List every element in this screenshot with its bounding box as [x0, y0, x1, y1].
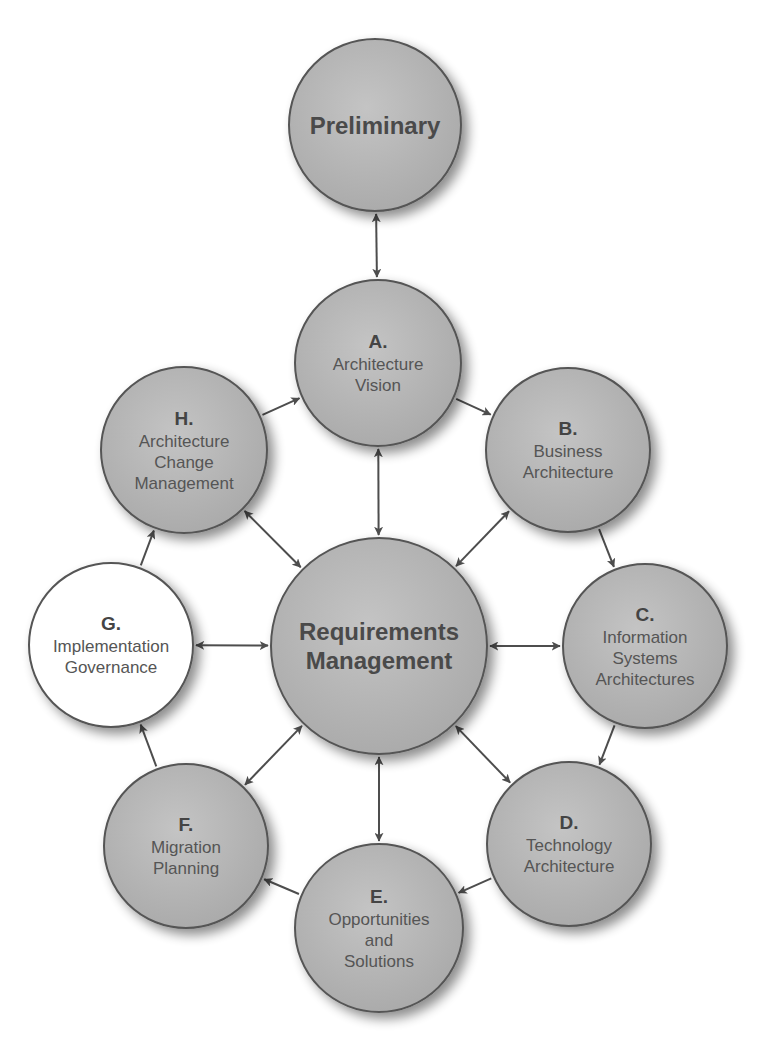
phase-name-line: Implementation [53, 636, 169, 657]
phase-name-line: Migration [151, 837, 221, 858]
phase-name-line: Opportunities [328, 909, 429, 930]
phase-label-h: H.ArchitectureChangeManagement [134, 407, 233, 494]
phase-name-line: Management [299, 646, 459, 675]
arrow-g-to-h [141, 531, 154, 566]
phase-label-a: A.ArchitectureVision [333, 330, 424, 396]
phase-letter: H. [134, 407, 233, 431]
phase-letter: F. [151, 813, 221, 837]
arrow-f-to-g [141, 725, 157, 767]
phase-name-line: Governance [53, 657, 169, 678]
phase-name-line: Information [595, 627, 694, 648]
phase-name-line: Solutions [328, 951, 429, 972]
phase-label-f: F.MigrationPlanning [151, 813, 221, 879]
phase-name-line: Planning [151, 858, 221, 879]
phase-name-line: Architecture [333, 354, 424, 375]
arrow-a-to-b [456, 399, 491, 415]
bidirectional-arrow-rm-to-h [245, 511, 301, 567]
phase-label-d: D.TechnologyArchitecture [524, 811, 615, 877]
phase-name-line: Systems [595, 648, 694, 669]
arrow-e-to-f [264, 879, 299, 894]
phase-letter: C. [595, 603, 694, 627]
phase-name-line: Architecture [523, 462, 614, 483]
phase-letter: E. [328, 885, 429, 909]
phase-label-prelim: Preliminary [310, 111, 441, 140]
phase-label-e: E.OpportunitiesandSolutions [328, 885, 429, 972]
phase-name-line: Vision [333, 375, 424, 396]
phase-letter: D. [524, 811, 615, 835]
phase-name-line: Requirements [299, 617, 459, 646]
bidirectional-arrow-rm-to-b [456, 511, 509, 566]
phase-label-rm: RequirementsManagement [299, 617, 459, 675]
bidirectional-arrow-prelim-to-a [376, 214, 377, 277]
phase-label-b: B.BusinessArchitecture [523, 417, 614, 483]
phase-letter: A. [333, 330, 424, 354]
phase-label-g: G.ImplementationGovernance [53, 612, 169, 678]
phase-name-line: Preliminary [310, 111, 441, 140]
phase-name-line: Management [134, 473, 233, 494]
phase-name-line: Architecture [134, 431, 233, 452]
phase-name-line: and [328, 930, 429, 951]
phase-name-line: Architecture [524, 856, 615, 877]
phase-name-line: Architectures [595, 669, 694, 690]
arrow-b-to-c [599, 529, 614, 567]
phase-name-line: Technology [524, 835, 615, 856]
phase-name-line: Change [134, 452, 233, 473]
arrow-d-to-e [459, 878, 492, 892]
phase-letter: G. [53, 612, 169, 636]
arrow-h-to-a [262, 398, 299, 415]
phase-letter: B. [523, 417, 614, 441]
phase-name-line: Business [523, 441, 614, 462]
bidirectional-arrow-rm-to-d [456, 726, 510, 783]
phase-label-c: C.InformationSystemsArchitectures [595, 603, 694, 690]
arrow-c-to-d [599, 725, 614, 764]
bidirectional-arrow-rm-to-f [245, 726, 302, 785]
